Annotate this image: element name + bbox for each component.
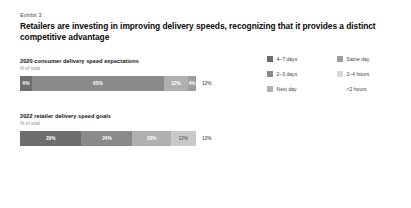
bar-segment: 18%	[132, 131, 170, 146]
chart-subtitle: % of total	[20, 121, 397, 126]
bar-segment: 12%	[164, 76, 188, 91]
bar-segment: 12%	[171, 131, 196, 146]
bar-row: 29%24%18%12% 12%	[20, 131, 397, 146]
bar-segment: 65%	[32, 76, 163, 91]
bar-row: 6%65%12%4% 12%	[20, 76, 397, 91]
exhibit-headline: Retailers are investing in improving del…	[20, 21, 392, 45]
exhibit-page: Exhibit 3 Retailers are investing in imp…	[0, 0, 411, 208]
bar-outside-label: 12%	[202, 81, 212, 86]
chart-title: 2022 retailer delivery speed goals	[20, 113, 397, 119]
bar-outside-label: 12%	[202, 136, 212, 141]
bar-segment: 4%	[188, 76, 196, 91]
stacked-bar: 6%65%12%4%	[20, 76, 196, 91]
chart-2022-retailer-goals: 2022 retailer delivery speed goals % of …	[20, 113, 397, 146]
chart-title: 2020 consumer delivery speed expectation…	[20, 58, 397, 64]
exhibit-label: Exhibit 3	[20, 12, 397, 18]
stacked-bar: 29%24%18%12%	[20, 131, 196, 146]
chart-subtitle: % of total	[20, 66, 397, 71]
chart-2020-consumer-expectations: 2020 consumer delivery speed expectation…	[20, 58, 397, 91]
bar-segment: 6%	[20, 76, 32, 91]
bar-segment: 24%	[81, 131, 132, 146]
bar-segment: 29%	[20, 131, 81, 146]
